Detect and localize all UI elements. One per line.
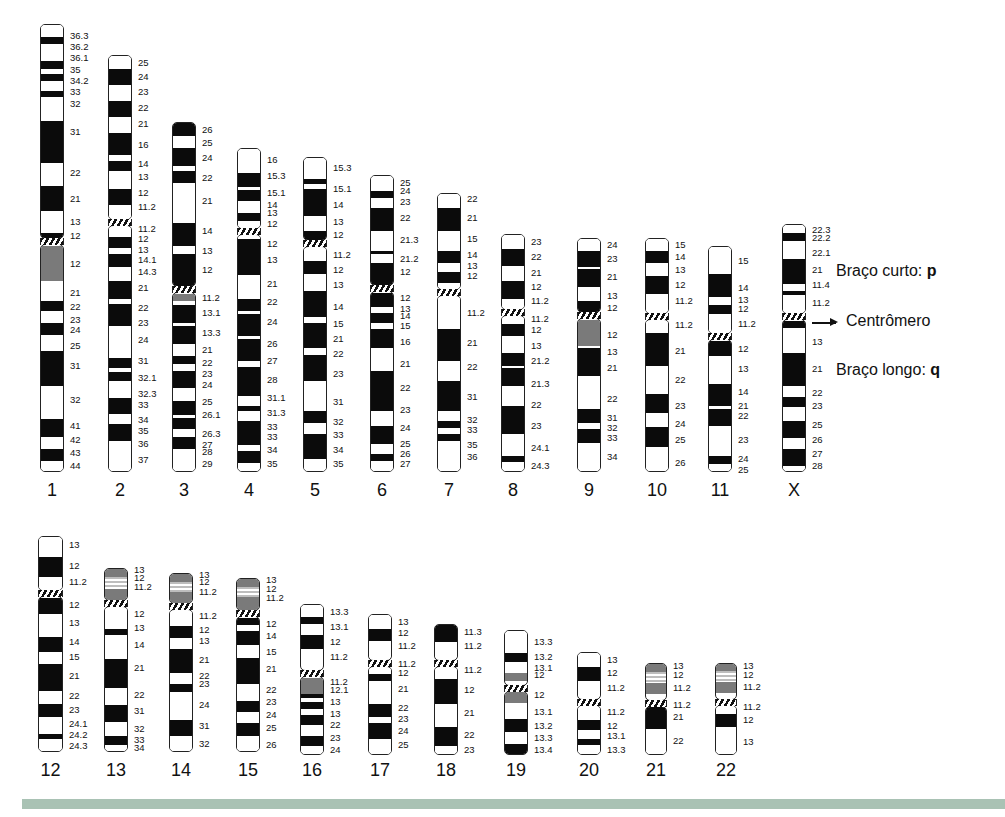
chromosome-band	[646, 294, 668, 314]
band-label: 22	[400, 383, 411, 392]
chromosome-band	[39, 537, 62, 557]
chromosome-band	[301, 702, 323, 709]
band-label: 26.1	[202, 410, 221, 419]
chromosome-band	[371, 313, 393, 323]
short-arm-p	[38, 536, 63, 591]
chromosome-band	[41, 386, 63, 419]
band-label: 15	[400, 321, 411, 330]
band-label: 11.2	[330, 652, 348, 661]
band-label: 11.2	[464, 665, 482, 674]
chromosome-band	[646, 707, 666, 729]
chromosome-band	[502, 386, 524, 406]
band-label: 13.1	[534, 707, 553, 716]
chromosome-band	[709, 464, 731, 472]
band-label: 11.2	[675, 296, 693, 305]
centromere-hatch	[645, 313, 669, 320]
chromosome-band	[39, 717, 62, 734]
band-label: 12	[70, 259, 81, 268]
band-label: 24	[202, 153, 213, 162]
band-label: 25	[138, 58, 149, 67]
chromosome-8	[501, 234, 525, 472]
band-label: 12	[199, 625, 210, 634]
band-label: 32	[70, 395, 81, 404]
band-label: 36	[138, 439, 149, 448]
chromosome-band	[237, 723, 259, 736]
chromosome-band	[709, 409, 731, 426]
band-label: 21	[202, 196, 213, 205]
chromosome-band	[41, 163, 63, 186]
chromosome-band	[578, 239, 600, 251]
chromosome-band	[173, 305, 195, 323]
band-label: 21	[134, 663, 145, 672]
band-label: 23	[464, 745, 475, 754]
chromosome-band	[237, 631, 259, 645]
chromosome-band	[41, 61, 63, 69]
chromosome-band	[109, 424, 131, 441]
centromere-hatch	[434, 660, 458, 667]
chromosome-band	[709, 356, 731, 384]
chromosome-number: 21	[641, 760, 671, 781]
band-label: 14	[738, 387, 749, 396]
chromosome-band	[435, 746, 457, 755]
band-label: 12	[70, 231, 81, 240]
chromosome-band	[39, 598, 62, 614]
band-label: 22	[70, 302, 81, 311]
band-label: 24	[138, 72, 149, 81]
short-arm-p	[370, 175, 394, 286]
band-label: 22	[330, 720, 341, 729]
chromosome-6	[370, 175, 394, 472]
band-label: 12	[333, 230, 344, 239]
band-label: 31	[333, 397, 344, 406]
band-label: 31	[199, 721, 210, 730]
band-label: 24.1	[531, 443, 550, 452]
band-label: 12	[607, 303, 618, 312]
band-label: 16	[138, 140, 149, 149]
chromosome-band	[646, 251, 668, 263]
chromosome-band	[369, 739, 391, 755]
band-label: 12	[464, 685, 475, 694]
chromosome-band	[369, 641, 391, 657]
band-label: 11.3	[464, 627, 482, 636]
chromosome-number: X	[779, 480, 809, 501]
chromosome-band	[109, 56, 131, 69]
short-arm-p	[645, 238, 669, 314]
short-arm-p	[237, 148, 261, 229]
chromosome-band	[301, 649, 323, 664]
chromosome-band	[709, 341, 731, 356]
chromosome-band	[369, 615, 391, 629]
chromosome-band	[709, 456, 731, 464]
band-label: 12	[199, 577, 210, 586]
band-label: 29	[202, 459, 213, 468]
band-label: 28	[812, 461, 823, 470]
chromosome-band	[170, 574, 192, 582]
chromosome-band	[238, 451, 260, 463]
band-label: 33	[267, 422, 278, 431]
chromosome-band	[435, 625, 457, 642]
band-label: 34.2	[70, 76, 89, 85]
chromosome-band	[709, 384, 731, 406]
chromosome-band	[170, 720, 192, 736]
band-label: 24.1	[69, 719, 88, 728]
band-label: 11.4	[812, 280, 830, 289]
chromosome-band	[301, 624, 323, 635]
band-label: 26	[812, 435, 823, 444]
chromosome-band	[173, 294, 195, 301]
chromosome-band	[301, 635, 323, 649]
chromosome-band	[304, 459, 326, 472]
band-label: 32	[134, 724, 145, 733]
chromosome-band	[783, 386, 805, 397]
band-label: 12	[398, 628, 409, 637]
chromosome-band	[646, 413, 668, 427]
band-label: 13	[202, 246, 213, 255]
chromosome-band	[783, 295, 805, 314]
band-label: 23	[202, 369, 213, 378]
band-label: 13	[138, 245, 149, 254]
band-label: 13	[70, 217, 81, 226]
chromosome-band	[369, 674, 391, 681]
chromosome-band	[109, 133, 131, 155]
long-arm-q	[645, 706, 667, 755]
long-arm-q	[434, 666, 458, 755]
band-label: 24	[607, 240, 618, 249]
chromosome-band	[578, 720, 600, 730]
chromosome-band	[41, 335, 63, 351]
